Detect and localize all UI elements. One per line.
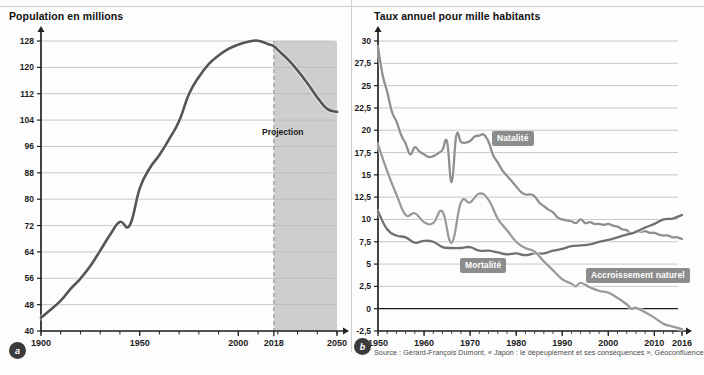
- svg-text:1980: 1980: [506, 338, 526, 348]
- svg-text:27,5: 27,5: [354, 58, 371, 68]
- svg-text:1960: 1960: [414, 338, 434, 348]
- svg-text:15: 15: [362, 170, 372, 180]
- panel-population: Population en millions 40485664728088961…: [0, 0, 352, 352]
- panel-badge-b: b: [354, 338, 371, 355]
- svg-text:7,5: 7,5: [359, 237, 371, 247]
- svg-text:72: 72: [25, 221, 35, 231]
- svg-text:1970: 1970: [460, 338, 480, 348]
- svg-text:5: 5: [366, 259, 371, 269]
- svg-text:120: 120: [20, 62, 34, 72]
- svg-text:80: 80: [25, 194, 35, 204]
- projection-label: Projection: [262, 127, 304, 137]
- svg-text:12,5: 12,5: [354, 192, 371, 202]
- svg-text:56: 56: [25, 273, 35, 283]
- svg-text:2000: 2000: [598, 338, 618, 348]
- figure-container: Population en millions 40485664728088961…: [0, 0, 704, 375]
- svg-text:96: 96: [25, 141, 35, 151]
- svg-text:30: 30: [362, 36, 372, 46]
- svg-text:2016: 2016: [672, 338, 692, 348]
- series-label-mortalite: Mortalité: [460, 258, 506, 273]
- svg-text:112: 112: [20, 89, 34, 99]
- rates-chart-svg: -2,502,557,51012,51517,52022,52527,53019…: [352, 0, 704, 352]
- svg-text:64: 64: [25, 247, 35, 257]
- svg-text:2050: 2050: [327, 338, 347, 348]
- svg-text:1990: 1990: [552, 338, 572, 348]
- svg-text:2,5: 2,5: [359, 281, 371, 291]
- svg-text:1950: 1950: [130, 338, 150, 348]
- svg-text:0: 0: [366, 304, 371, 314]
- panel-badge-a: a: [9, 342, 26, 359]
- svg-text:17,5: 17,5: [354, 148, 371, 158]
- series-label-natalite: Natalité: [492, 131, 534, 146]
- svg-text:1900: 1900: [31, 338, 51, 348]
- svg-text:-2,5: -2,5: [356, 326, 371, 336]
- panel-rates: Taux annuel pour mille habitants -2,502,…: [352, 0, 704, 352]
- population-chart-svg: 4048566472808896104112120128190019502000…: [0, 0, 352, 352]
- svg-text:128: 128: [20, 36, 34, 46]
- svg-text:22,5: 22,5: [354, 103, 371, 113]
- svg-text:48: 48: [25, 300, 35, 310]
- svg-text:20: 20: [362, 125, 372, 135]
- svg-text:10: 10: [362, 214, 372, 224]
- series-label-accroissement-naturel: Accroissement naturel: [586, 268, 690, 283]
- svg-text:25: 25: [362, 81, 372, 91]
- svg-text:2010: 2010: [644, 338, 664, 348]
- source-citation: Source : Gérard-François Dumont, « Japon…: [374, 348, 704, 357]
- svg-text:88: 88: [25, 168, 35, 178]
- svg-text:40: 40: [25, 326, 35, 336]
- svg-text:2000: 2000: [228, 338, 248, 348]
- svg-text:2018: 2018: [264, 338, 284, 348]
- svg-text:104: 104: [20, 115, 34, 125]
